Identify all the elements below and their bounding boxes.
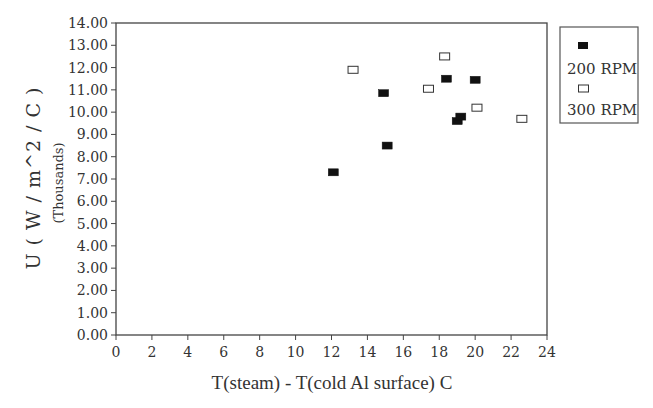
data-point-200rpm <box>379 90 389 97</box>
x-tick-label: 6 <box>219 344 228 360</box>
x-tick-label: 14 <box>359 344 377 360</box>
x-tick-label: 0 <box>112 344 121 360</box>
data-point-300rpm <box>472 104 482 111</box>
y-tick-label: 3.00 <box>77 260 108 276</box>
x-tick-label: 12 <box>323 344 341 360</box>
x-tick-label: 8 <box>255 344 264 360</box>
y-tick-label: 9.00 <box>77 126 108 142</box>
plot-area <box>116 23 547 335</box>
data-point-300rpm <box>517 115 527 122</box>
legend-marker-filled-square-icon <box>578 42 588 49</box>
y-tick-label: 14.00 <box>68 15 108 31</box>
x-tick-label: 18 <box>430 344 448 360</box>
y-tick-label: 11.00 <box>68 82 108 98</box>
y-tick-label: 5.00 <box>77 216 108 232</box>
y-tick-label: 1.00 <box>77 305 108 321</box>
data-point-200rpm <box>470 76 480 83</box>
data-point-200rpm <box>382 142 392 149</box>
data-point-300rpm <box>423 85 433 92</box>
x-tick-label: 4 <box>183 344 192 360</box>
x-tick-label: 22 <box>502 344 520 360</box>
y-tick-label: 2.00 <box>77 282 108 298</box>
data-point-300rpm <box>348 66 358 73</box>
x-tick-label: 16 <box>394 344 412 360</box>
legend-marker-open-square-icon <box>579 85 589 92</box>
y-tick-label: 12.00 <box>68 60 108 76</box>
legend-label-200rpm: 200 RPM <box>567 60 637 78</box>
y-tick-label: 4.00 <box>77 238 108 254</box>
y-axis-subtitle: (Thousands) <box>51 142 66 223</box>
data-points <box>328 53 527 176</box>
y-axis-title: U ( W / m^2 / C ) <box>22 86 44 269</box>
x-tick-label: 10 <box>287 344 305 360</box>
y-tick-label: 8.00 <box>77 149 108 165</box>
legend: 200 RPM 300 RPM <box>560 27 638 123</box>
y-tick-label: 0.00 <box>77 327 108 343</box>
y-tick-label: 6.00 <box>77 193 108 209</box>
x-tick-label: 2 <box>147 344 156 360</box>
y-tick-label: 10.00 <box>68 104 108 120</box>
y-tick-label: 7.00 <box>77 171 108 187</box>
x-axis: 024681012141618202224 <box>112 335 556 360</box>
scatter-chart: 0.001.002.003.004.005.006.007.008.009.00… <box>0 0 653 408</box>
data-point-200rpm <box>441 75 451 82</box>
x-axis-title: T(steam) - T(cold Al surface) C <box>212 372 453 394</box>
data-point-200rpm <box>328 169 338 176</box>
x-tick-label: 24 <box>538 344 556 360</box>
y-tick-label: 13.00 <box>68 37 108 53</box>
data-point-300rpm <box>440 53 450 60</box>
data-point-200rpm <box>456 113 466 120</box>
legend-label-300rpm: 300 RPM <box>567 101 637 119</box>
y-axis: 0.001.002.003.004.005.006.007.008.009.00… <box>68 15 116 343</box>
x-tick-label: 20 <box>466 344 484 360</box>
